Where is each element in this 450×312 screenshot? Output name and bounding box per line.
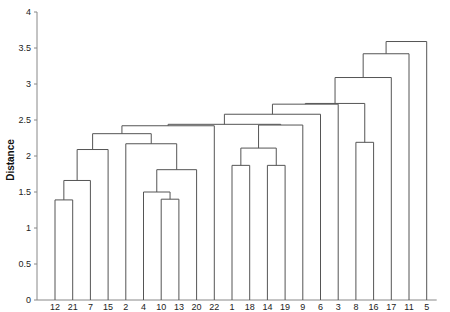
leaf-label: 12 [50,302,60,312]
leaf-label: 22 [209,302,219,312]
dendrogram-link [241,148,276,165]
y-tick-label: 1.5 [18,187,31,197]
dendrogram-link [259,125,303,300]
dendrogram-link [122,126,214,300]
leaf-label: 16 [369,302,379,312]
leaf-label: 15 [103,302,113,312]
dendrogram-link [267,165,285,300]
dendrogram-links [55,42,427,300]
y-tick-label: 0.5 [18,259,31,269]
dendrogram-link [386,42,427,300]
dendrogram-link [157,170,197,300]
leaf-label: 4 [141,302,146,312]
y-tick-label: 3.5 [18,43,31,53]
leaf-label: 19 [280,302,290,312]
y-tick-label: 2.5 [18,115,31,125]
y-tick-label: 0 [26,295,31,305]
y-tick-label: 4 [26,7,31,17]
x-axis: 12217152410132022118141996381617115 [37,300,437,312]
y-tick-label: 2 [26,151,31,161]
leaf-label: 2 [123,302,128,312]
leaf-label: 5 [424,302,429,312]
leaf-label: 9 [300,302,305,312]
leaf-label: 18 [245,302,255,312]
dendrogram-link [305,103,364,142]
dendrogram-link [232,165,250,300]
leaf-label: 17 [386,302,396,312]
dendrogram-chart: 00.511.522.533.54 1221715241013202211814… [0,0,450,312]
dendrogram-link [161,199,179,300]
dendrogram-link [93,134,152,150]
dendrogram-link [335,78,391,300]
y-axis-label: Distance [5,139,16,181]
leaf-label: 21 [68,302,78,312]
leaf-label: 14 [262,302,272,312]
dendrogram-link [272,104,338,300]
leaf-label: 3 [336,302,341,312]
dendrogram-link [356,142,374,300]
leaf-label: 6 [318,302,323,312]
dendrogram-link [363,54,409,300]
dendrogram-link [77,150,108,300]
leaf-label: 7 [88,302,93,312]
dendrogram-link [144,192,171,300]
dendrogram-link [224,114,320,300]
leaf-label: 13 [174,302,184,312]
dendrogram-link [126,144,177,300]
leaf-label: 11 [404,302,413,312]
y-axis: 00.511.522.533.54 [18,7,37,305]
leaf-label: 10 [156,302,166,312]
dendrogram-link [55,200,73,300]
y-tick-label: 1 [26,223,31,233]
leaf-label: 20 [192,302,202,312]
y-tick-label: 3 [26,79,31,89]
leaf-label: 1 [229,302,234,312]
leaf-label: 8 [353,302,358,312]
dendrogram-link [64,180,91,300]
